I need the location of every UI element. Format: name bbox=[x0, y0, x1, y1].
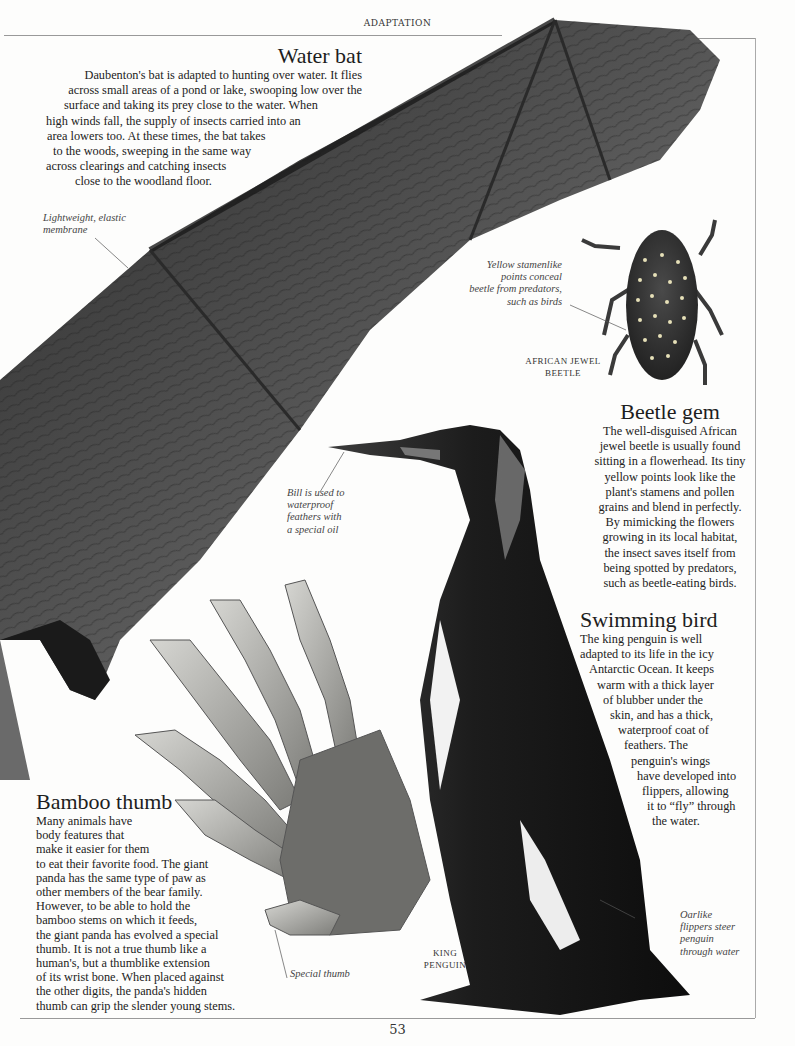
text-line: area lowers too. At these times, the bat… bbox=[40, 129, 362, 144]
text-line: penguin's wings bbox=[580, 754, 760, 769]
section-body-water-bat: Daubenton's bat is adapted to hunting ov… bbox=[40, 68, 362, 190]
text-line: plant's stamens and pollen bbox=[580, 485, 760, 500]
text-line: grains and blend in perfectly. bbox=[580, 500, 760, 515]
text-line: By mimicking the flowers bbox=[580, 515, 760, 530]
section-title-bamboo-thumb: Bamboo thumb bbox=[36, 790, 286, 814]
text-line: close to the woodland floor. bbox=[40, 174, 362, 189]
text-line: across clearings and catching insects bbox=[40, 159, 362, 174]
text-line: of blubber under the bbox=[580, 693, 760, 708]
text-line: flippers, allowing bbox=[580, 784, 760, 799]
section-body-beetle-gem: The well-disguised African jewel beetle … bbox=[580, 424, 760, 591]
section-swimming-bird: Swimming bird The king penguin is well a… bbox=[580, 608, 760, 830]
text-line: the other digits, the panda's hidden bbox=[36, 984, 286, 998]
text-line: other members of the bear family. bbox=[36, 885, 286, 899]
text-line: Many animals have bbox=[36, 814, 286, 828]
text-line: high winds fall, the supply of insects c… bbox=[40, 114, 362, 129]
section-beetle-gem: Beetle gem The well-disguised African je… bbox=[580, 400, 760, 591]
label-king-penguin: KING PENGUIN bbox=[415, 947, 475, 971]
text-line: human's, but a thumblike extension bbox=[36, 956, 286, 970]
text-line: thumb. It is not a true thumb like a bbox=[36, 942, 286, 956]
text-line: surface and taking its prey close to the… bbox=[40, 98, 362, 113]
text-line: bamboo stems on which it feeds, bbox=[36, 913, 286, 927]
text-line: make it easier for them bbox=[36, 842, 286, 856]
text-line: jewel beetle is usually found bbox=[580, 439, 760, 454]
text-line: across small areas of a pond or lake, sw… bbox=[40, 83, 362, 98]
text-line: the water. bbox=[580, 814, 760, 829]
text-line: have developed into bbox=[580, 769, 760, 784]
text-line: The king penguin is well bbox=[580, 632, 760, 647]
text-line: waterproof coat of bbox=[580, 723, 760, 738]
text-line: being spotted by predators, bbox=[580, 561, 760, 576]
text-line: the giant panda has evolved a special bbox=[36, 928, 286, 942]
section-title-swimming-bird: Swimming bird bbox=[580, 608, 760, 632]
text-line: growing in its local habitat, bbox=[580, 530, 760, 545]
text-line: body features that bbox=[36, 828, 286, 842]
caption-special-thumb: Special thumb bbox=[290, 968, 350, 980]
text-line: skin, and has a thick, bbox=[580, 708, 760, 723]
text-line: to the woods, sweeping in the same way bbox=[40, 144, 362, 159]
section-water-bat: Water bat Daubenton's bat is adapted to … bbox=[40, 44, 362, 190]
section-body-swimming-bird: The king penguin is well adapted to its … bbox=[580, 632, 760, 830]
text-line: However, to be able to hold the bbox=[36, 899, 286, 913]
caption-flippers: Oarlike flippers steer penguin through w… bbox=[680, 909, 739, 958]
text-line: it to “fly” through bbox=[580, 799, 760, 814]
caption-beetle-points: Yellow stamenlike points conceal beetle … bbox=[450, 259, 562, 308]
text-line: yellow points look like the bbox=[580, 470, 760, 485]
section-title-beetle-gem: Beetle gem bbox=[580, 400, 760, 424]
text-line: of its wrist bone. When placed against bbox=[36, 970, 286, 984]
caption-membrane: Lightweight, elastic membrane bbox=[43, 212, 126, 236]
text-line: The well-disguised African bbox=[580, 424, 760, 439]
text-line: panda has the same type of paw as bbox=[36, 871, 286, 885]
text-line: feathers. The bbox=[580, 738, 760, 753]
text-line: thumb can grip the slender young stems. bbox=[36, 999, 286, 1013]
text-line: such as beetle-eating birds. bbox=[580, 576, 760, 591]
text-line: warm with a thick layer bbox=[580, 678, 760, 693]
section-body-bamboo-thumb: Many animals have body features that mak… bbox=[36, 814, 286, 1013]
text-line: Antarctic Ocean. It keeps bbox=[580, 662, 760, 677]
text-line: Daubenton's bat is adapted to hunting ov… bbox=[40, 68, 362, 83]
text-line: sitting in a flowerhead. Its tiny bbox=[580, 454, 760, 469]
caption-bill: Bill is used to waterproof feathers with… bbox=[287, 487, 344, 536]
section-bamboo-thumb: Bamboo thumb Many animals have body feat… bbox=[36, 790, 286, 1013]
text-line: adapted to its life in the icy bbox=[580, 647, 760, 662]
text-line: the insect saves itself from bbox=[580, 546, 760, 561]
text-line: to eat their favorite food. The giant bbox=[36, 857, 286, 871]
section-title-water-bat: Water bat bbox=[40, 44, 362, 68]
label-african-jewel-beetle: AFRICAN JEWEL BEETLE bbox=[523, 355, 603, 379]
